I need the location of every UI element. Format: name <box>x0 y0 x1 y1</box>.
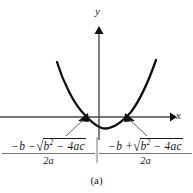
y-axis-arrowhead <box>95 26 104 34</box>
left-root-numerator-prefix: −b − <box>11 140 36 152</box>
right-root-radicand: b2 − 4ac <box>140 138 183 152</box>
figure-caption: (a) <box>0 174 193 186</box>
right-root-numerator-prefix: −b + <box>108 140 133 152</box>
left-root-radicand: b2 − 4ac <box>43 138 86 152</box>
y-axis-label: y <box>95 6 100 17</box>
left-root-radical: √b2 − 4ac <box>36 138 86 152</box>
radical-sign-icon: √ <box>36 138 43 153</box>
right-radicand-exponent: 2 <box>146 138 150 147</box>
right-radicand-rest: − 4ac <box>154 140 182 152</box>
parabola-curve <box>57 60 156 129</box>
left-root-numerator: −b −√b2 − 4ac <box>2 138 95 153</box>
radical-sign-icon: √ <box>133 138 140 153</box>
right-root-numerator: −b +√b2 − 4ac <box>99 138 192 153</box>
quadratic-formula-figure: y x −b −√b2 − 4ac 2a −b +√b2 − 4ac 2a (a… <box>0 0 193 193</box>
left-root-formula: −b −√b2 − 4ac 2a <box>2 138 95 166</box>
left-root-leader-line <box>66 120 83 136</box>
left-root-denominator: 2a <box>2 154 95 166</box>
left-radicand-exponent: 2 <box>49 138 53 147</box>
right-root-formula: −b +√b2 − 4ac 2a <box>99 138 192 166</box>
right-root-leader-line <box>130 120 147 136</box>
x-axis-label: x <box>176 110 181 121</box>
right-root-radical: √b2 − 4ac <box>133 138 183 152</box>
right-root-denominator: 2a <box>99 154 192 166</box>
left-radicand-rest: − 4ac <box>57 140 85 152</box>
